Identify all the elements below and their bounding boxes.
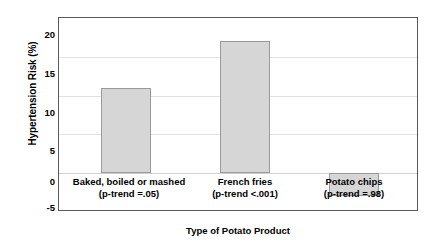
bar-french-fries [220, 41, 270, 173]
x-category-label-potato-chips: Potato chips (p-trend =.98) [284, 176, 424, 199]
y-axis-tick-labels: 20 15 10 5 0 -5 [0, 17, 55, 211]
x-category-name-2: Potato chips [284, 176, 424, 188]
y-tick-label-minus5: -5 [15, 203, 55, 213]
y-tick-label-10: 10 [15, 108, 55, 118]
plot-area: Baked, boiled or mashed (p-trend =.05) F… [58, 17, 418, 211]
y-tick-label-5: 5 [15, 146, 55, 156]
x-category-sublabel-2: (p-trend =.98) [284, 188, 424, 200]
bar-chart: Hypertension Risk (%) 20 15 10 5 0 -5 Ba… [0, 0, 441, 246]
y-tick-label-15: 15 [15, 69, 55, 79]
y-tick-label-20: 20 [15, 30, 55, 40]
bar-baked-boiled-or-mashed [101, 88, 151, 173]
x-axis-title: Type of Potato Product [58, 225, 418, 236]
